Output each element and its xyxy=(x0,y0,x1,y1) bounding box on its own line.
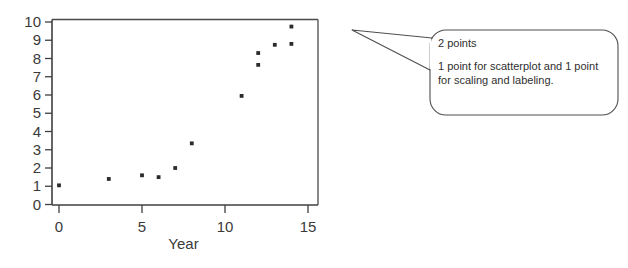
data-point xyxy=(140,173,144,177)
y-tick-label-8: 8 xyxy=(33,50,41,67)
x-tick-label-0: 0 xyxy=(55,218,63,235)
y-tick-label-1: 1 xyxy=(33,177,41,194)
callout-heading: 2 points xyxy=(438,36,618,50)
scatterplot-figure: 012345678910 051015 Year xyxy=(0,0,340,268)
x-tick-label-15: 15 xyxy=(300,218,317,235)
data-point xyxy=(256,63,260,67)
x-tick-label-5: 5 xyxy=(138,218,146,235)
y-tick-label-3: 3 xyxy=(33,141,41,158)
y-tick-label-10: 10 xyxy=(24,13,41,30)
data-point xyxy=(256,51,260,55)
data-point xyxy=(57,183,61,187)
annotation-callout: 2 points 1 point for scatterplot and 1 p… xyxy=(340,0,628,268)
data-point xyxy=(290,25,294,29)
callout-body-line-1: 1 point for scatterplot and 1 point xyxy=(438,59,618,73)
data-point xyxy=(190,141,194,145)
data-point xyxy=(157,175,161,179)
data-point xyxy=(240,94,244,98)
scatterplot-canvas: 012345678910 051015 Year xyxy=(0,0,340,268)
x-axis-title: Year xyxy=(168,235,198,252)
y-tick-label-4: 4 xyxy=(33,123,41,140)
y-tick-label-9: 9 xyxy=(33,31,41,48)
y-tick-label-7: 7 xyxy=(33,68,41,85)
data-point xyxy=(290,42,294,46)
callout-tail xyxy=(352,30,432,70)
y-tick-label-6: 6 xyxy=(33,86,41,103)
data-point xyxy=(273,43,277,47)
data-point xyxy=(107,177,111,181)
y-tick-label-5: 5 xyxy=(33,104,41,121)
data-point-series xyxy=(57,25,293,188)
data-point xyxy=(173,166,177,170)
y-tick-label-0: 0 xyxy=(33,196,41,213)
plot-frame xyxy=(52,20,318,206)
callout-text-block: 2 points 1 point for scatterplot and 1 p… xyxy=(438,36,618,87)
y-tick-label-2: 2 xyxy=(33,159,41,176)
x-tick-label-10: 10 xyxy=(217,218,234,235)
x-axis: 051015 xyxy=(55,205,317,235)
callout-body-line-2: for scaling and labeling. xyxy=(438,73,618,87)
y-axis: 012345678910 xyxy=(24,13,52,213)
